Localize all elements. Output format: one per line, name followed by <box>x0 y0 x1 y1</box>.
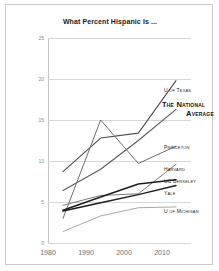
series-line <box>63 81 176 172</box>
chart-title: What Percent Hispanic Is ... <box>6 18 214 25</box>
gridline-0 <box>48 243 191 244</box>
y-tick-label-15: 15 <box>22 117 44 123</box>
series-line <box>63 207 176 232</box>
y-tick-label-10: 10 <box>22 158 44 164</box>
x-tick-label-1980: 1980 <box>31 249 65 256</box>
series-label-national-average-line1: The National <box>162 100 218 109</box>
x-tick-label-2000: 2000 <box>107 249 141 256</box>
series-label-national-average-line2: Average <box>162 109 218 118</box>
y-tick-label-0: 0 <box>22 240 44 246</box>
series-label-harvard: Harvard <box>164 166 185 172</box>
series-line <box>63 109 176 190</box>
series-label-yale: Yale <box>164 190 176 196</box>
y-tick-label-20: 20 <box>22 76 44 82</box>
chart-frame: What Percent Hispanic Is ... 25 20 15 10… <box>5 4 213 265</box>
series-label-u-of-michigan: U of Michigan <box>164 208 199 214</box>
y-tick-label-5: 5 <box>22 199 44 205</box>
series-label-national-average: The National Average <box>162 100 218 118</box>
x-tick-label-1990: 1990 <box>69 249 103 256</box>
series-label-u-of-texas: U of Texas <box>164 87 191 93</box>
x-tick-label-2010: 2010 <box>145 249 179 256</box>
series-label-princeton: Princeton <box>164 144 190 150</box>
y-tick-label-25: 25 <box>22 35 44 41</box>
series-label-uc-berkeley: UC Berkeley <box>164 178 196 184</box>
